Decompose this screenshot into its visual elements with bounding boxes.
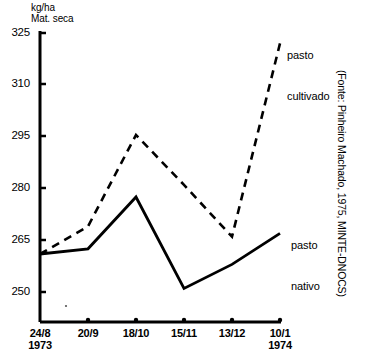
x-tick-18-10 [134, 318, 138, 322]
series-label-pasto-cultivado-line1: pasto [287, 49, 330, 63]
source-note: (Fonte: Pinheiro Machado, 1975, MINTE-DN… [336, 70, 348, 285]
x-tick-label-13-12: 13/12 [208, 327, 256, 339]
scan-speck [65, 305, 67, 307]
x-tick-15-11 [182, 318, 186, 322]
y-tick-label-250: 250 [0, 285, 30, 297]
x-tick-label-15-11: 15/11 [160, 327, 208, 339]
x-tick-year-1973: 1973 [16, 339, 64, 351]
x-tick-13-12 [230, 318, 234, 322]
y-tick-label-325: 325 [0, 26, 30, 38]
series-line-pasto-nativo [40, 197, 280, 289]
y-tick-label-280: 280 [0, 181, 30, 193]
x-tick-10-1 [278, 318, 282, 322]
y-tick-label-295: 295 [0, 129, 30, 141]
y-tick-label-310: 310 [0, 77, 30, 89]
series-label-pasto-nativo-line1: pasto [291, 239, 320, 253]
y-axis-title: kg/ha Mat. seca [31, 3, 73, 24]
series-line-pasto-cultivado [40, 43, 280, 254]
series-label-pasto-nativo-line2: nativo [291, 280, 320, 294]
chart-figure: kg/ha Mat. seca 325 310 295 280 265 250 … [0, 0, 381, 362]
series-label-pasto-nativo: pasto nativo [291, 212, 320, 320]
y-tick-label-265: 265 [0, 233, 30, 245]
x-tick-label-20-9: 20/9 [64, 327, 112, 339]
series-label-pasto-cultivado-line2: cultivado [287, 90, 330, 104]
x-tick-label-10-1: 10/1 [256, 327, 304, 339]
x-tick-year-1974: 1974 [256, 339, 304, 351]
x-tick-20-9 [86, 318, 90, 322]
x-tick-label-24-8: 24/8 [16, 327, 64, 339]
x-tick-label-18-10: 18/10 [112, 327, 160, 339]
series-label-pasto-cultivado: pasto cultivado [287, 22, 330, 130]
